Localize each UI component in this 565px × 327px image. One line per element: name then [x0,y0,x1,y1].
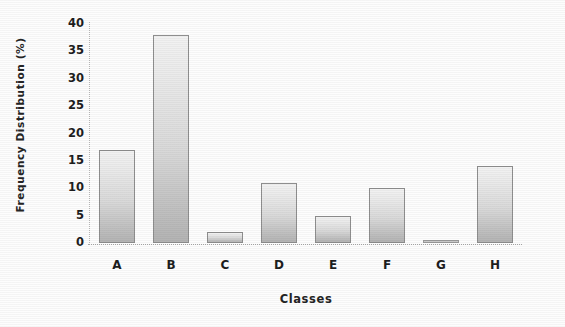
y-tick-label: 10 [56,183,84,195]
y-tick-label: 15 [56,155,84,167]
bar-chart-figure: Frequency Distribution (%) 4035302520151… [0,0,565,327]
plot-area [90,24,522,243]
x-tick-label-g: G [436,258,446,272]
x-axis-line [88,244,522,245]
y-tick-label: 20 [56,128,84,140]
x-tick-label-h: H [490,258,500,272]
x-tick-label-f: F [383,258,391,272]
x-tick-label-b: B [166,258,175,272]
bar-a[interactable] [99,150,135,243]
bar-f[interactable] [369,188,405,243]
bar-slot [198,24,252,243]
y-axis-title: Frequency Distribution (%) [0,0,40,250]
bar-g[interactable] [423,240,459,243]
bar-slot [360,24,414,243]
x-tick-label-e: E [329,258,337,272]
bar-b[interactable] [153,35,189,243]
bar-slot [252,24,306,243]
y-axis-title-text: Frequency Distribution (%) [14,37,26,212]
bar-d[interactable] [261,183,297,243]
bar-slot [306,24,360,243]
x-tick-label-d: D [274,258,284,272]
y-tick-label: 35 [56,46,84,58]
bar-series [90,24,522,243]
x-tick-label-c: C [221,258,230,272]
y-axis-tick-labels: 4035302520151050 [56,16,84,244]
bar-slot [468,24,522,243]
y-tick-label: 30 [56,73,84,85]
bar-slot [90,24,144,243]
bar-slot [414,24,468,243]
x-axis-tick-labels: ABCDEFGH [90,258,522,278]
y-tick-label: 25 [56,100,84,112]
x-axis-title: Classes [90,292,522,306]
bar-e[interactable] [315,216,351,243]
y-tick-label: 40 [56,18,84,30]
bar-slot [144,24,198,243]
bar-c[interactable] [207,232,243,243]
bar-h[interactable] [477,166,513,243]
x-tick-label-a: A [112,258,121,272]
y-tick-label: 0 [56,237,84,249]
y-tick-label: 5 [56,210,84,222]
